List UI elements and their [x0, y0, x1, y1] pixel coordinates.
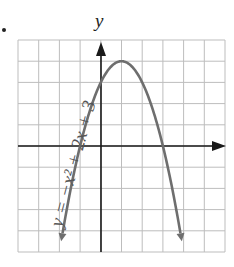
x-axis-arrow-icon — [212, 141, 226, 151]
equation-label: y = −x² + 2x + 3 — [45, 98, 99, 231]
parabola-chart: y = −x² + 2x + 3 — [0, 0, 234, 267]
y-axis-arrow-icon — [96, 42, 106, 56]
